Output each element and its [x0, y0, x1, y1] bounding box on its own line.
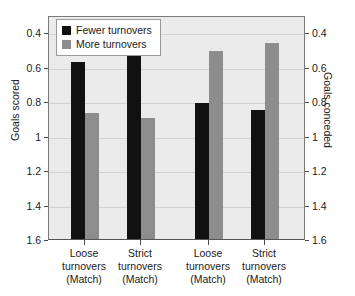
right-axis-tick [305, 68, 309, 69]
chart-legend: Fewer turnovers More turnovers [56, 19, 161, 56]
bar-more-group-2 [141, 118, 155, 239]
right-axis-tick-label: 1 [312, 132, 318, 143]
x-axis-tick [208, 240, 209, 245]
legend-label-more: More turnovers [76, 39, 147, 50]
left-axis-tick [44, 137, 48, 138]
left-axis-tick [44, 68, 48, 69]
chart-figure: 1.61.41.210.80.60.4 1.61.41.210.80.60.4 … [0, 0, 355, 296]
x-axis-category-label-4: Strictturnovers(Match) [231, 247, 297, 286]
bar-fewer-group-1 [71, 62, 85, 239]
category-label-line1: Strict [107, 247, 173, 260]
chart-title [0, 0, 355, 1]
right-axis-tick [305, 240, 309, 241]
bar-more-group-4 [265, 43, 279, 239]
left-axis-title: Goals scored [9, 65, 21, 155]
right-axis-tick [305, 33, 309, 34]
category-label-line2: turnovers [231, 260, 297, 273]
right-axis-tick-label: 1.6 [312, 235, 327, 246]
x-axis-tick [140, 240, 141, 245]
left-axis-tick-label: 0.4 [26, 28, 41, 39]
left-axis-tick-label: 1 [35, 132, 41, 143]
category-label-line1: Strict [231, 247, 297, 260]
x-axis-ticks [48, 240, 305, 245]
x-axis-labels: Looseturnovers(Match)Strictturnovers(Mat… [48, 247, 305, 293]
right-axis-tick-label: 1.2 [312, 166, 327, 177]
right-axis-tick [305, 102, 309, 103]
left-axis-tick [44, 206, 48, 207]
bar-fewer-group-4 [251, 110, 265, 239]
left-axis-tick-label: 1.6 [26, 235, 41, 246]
bar-fewer-group-2 [127, 55, 141, 239]
legend-swatch-icon-more [62, 40, 71, 49]
x-axis-tick [84, 240, 85, 245]
left-axis-tick-label: 0.6 [26, 63, 41, 74]
left-axis-tick [44, 171, 48, 172]
legend-label-fewer: Fewer turnovers [76, 25, 152, 36]
x-axis-category-label-2: Strictturnovers(Match) [107, 247, 173, 286]
left-axis-tick-label: 0.8 [26, 97, 41, 108]
left-axis-tick-label: 1.4 [26, 201, 41, 212]
right-axis-tick [305, 206, 309, 207]
legend-item-fewer-turnovers: Fewer turnovers [62, 24, 152, 37]
category-label-line3: (Match) [231, 273, 297, 286]
right-axis-tick [305, 137, 309, 138]
x-axis-tick [264, 240, 265, 245]
bar-more-group-3 [209, 51, 223, 239]
bar-fewer-group-3 [195, 103, 209, 239]
legend-item-more-turnovers: More turnovers [62, 38, 152, 51]
legend-swatch-icon-fewer [62, 26, 71, 35]
right-axis-tick-label: 1.4 [312, 201, 327, 212]
left-axis-tick-label: 1.2 [26, 166, 41, 177]
category-label-line3: (Match) [107, 273, 173, 286]
right-axis-title: Goals conceded [322, 65, 334, 155]
left-axis-tick [44, 33, 48, 34]
category-label-line2: turnovers [107, 260, 173, 273]
right-axis-tick-label: 0.4 [312, 28, 327, 39]
bar-more-group-1 [85, 113, 99, 239]
left-axis-tick [44, 102, 48, 103]
right-axis-tick [305, 171, 309, 172]
